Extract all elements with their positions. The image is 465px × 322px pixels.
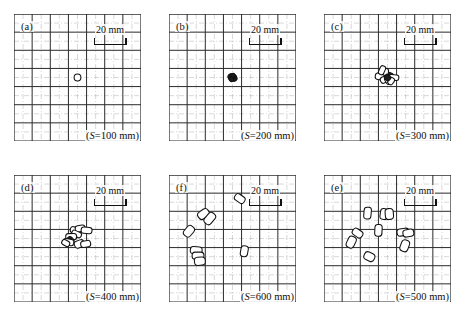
standoff-caption-f: (S=600 mm)	[240, 291, 295, 303]
panel-b: (b)20 mm(S=200 mm)	[155, 0, 310, 161]
scale-bar-bracket	[249, 38, 282, 45]
fragment-marker	[240, 245, 249, 257]
caption-value: 100 mm)	[101, 130, 139, 141]
caption-value: 300 mm)	[411, 130, 449, 141]
scale-bar-bracket	[404, 199, 437, 206]
scale-bar-bracket	[404, 38, 437, 45]
scale-bar-bracket	[94, 38, 127, 45]
fragment-marker	[363, 207, 371, 219]
standoff-caption-d: (S=400 mm)	[85, 291, 140, 303]
scale-bar-label: 20 mm	[405, 185, 435, 196]
panel-c: (c)20 mm(S=300 mm)	[310, 0, 465, 161]
panel-letter-b: (b)	[175, 21, 190, 32]
panel-letter-a: (a)	[20, 21, 34, 32]
fragment-marker	[363, 251, 376, 263]
scale-bar-label: 20 mm	[250, 24, 280, 35]
fragment-marker	[374, 224, 382, 236]
panel-f: (f)20 mm(S=600 mm)	[155, 161, 310, 322]
panel-letter-e: (e)	[330, 182, 344, 193]
standoff-caption-a: (S=100 mm)	[85, 130, 140, 142]
markers-d	[61, 225, 92, 249]
fragment-marker	[182, 224, 196, 238]
fragment-marker	[81, 227, 92, 234]
figure-panel-grid: (a)20 mm(S=100 mm)(b)20 mm(S=200 mm)(c)2…	[0, 0, 465, 322]
scale-bar-bracket	[249, 199, 282, 206]
caption-value: 600 mm)	[256, 291, 294, 302]
scale-bar-label: 20 mm	[405, 24, 435, 35]
fragment-marker	[402, 229, 414, 238]
standoff-caption-b: (S=200 mm)	[240, 130, 295, 142]
caption-value: 500 mm)	[411, 291, 449, 302]
markers-b	[227, 73, 238, 82]
fragment-marker	[194, 257, 206, 266]
panel-letter-f: (f)	[175, 182, 188, 193]
standoff-caption-c: (S=300 mm)	[395, 130, 450, 142]
scale-bar-e: 20 mm	[391, 180, 449, 206]
scale-bar-bracket	[94, 199, 127, 206]
panel-a: (a)20 mm(S=100 mm)	[0, 0, 155, 161]
scale-bar-b: 20 mm	[236, 19, 294, 45]
standoff-caption-e: (S=500 mm)	[395, 291, 450, 303]
panel-e: (e)20 mm(S=500 mm)	[310, 161, 465, 322]
scale-bar-a: 20 mm	[81, 19, 139, 45]
fragment-marker	[74, 74, 81, 81]
scale-bar-d: 20 mm	[81, 180, 139, 206]
fragment-marker	[385, 208, 394, 220]
fragment-marker	[80, 240, 91, 248]
caption-value: 400 mm)	[101, 291, 139, 302]
scale-bar-f: 20 mm	[236, 180, 294, 206]
markers-e	[345, 207, 414, 263]
scale-bar-label: 20 mm	[250, 185, 280, 196]
markers-a	[74, 74, 81, 81]
scale-bar-label: 20 mm	[95, 24, 125, 35]
panel-d: (d)20 mm(S=400 mm)	[0, 161, 155, 322]
panel-letter-c: (c)	[330, 21, 344, 32]
fragment-marker	[399, 239, 411, 253]
scale-bar-c: 20 mm	[391, 19, 449, 45]
scale-bar-label: 20 mm	[95, 185, 125, 196]
caption-value: 200 mm)	[256, 130, 294, 141]
panel-letter-d: (d)	[20, 182, 35, 193]
